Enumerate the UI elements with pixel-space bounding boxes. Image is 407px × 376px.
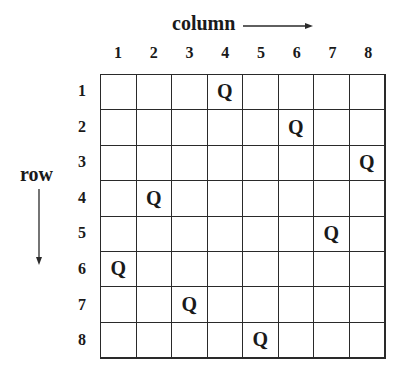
board-cell xyxy=(349,109,385,144)
row-number: 5 xyxy=(74,224,90,242)
column-number: 2 xyxy=(136,44,172,62)
chessboard-grid: QQQQQQQQ xyxy=(100,74,386,359)
queen-marker: Q xyxy=(288,116,304,139)
board-cell xyxy=(278,180,314,215)
right-arrow-icon xyxy=(243,20,313,32)
column-number: 1 xyxy=(100,44,136,62)
board-cell xyxy=(242,180,278,215)
board-cell xyxy=(278,322,314,357)
board-cell xyxy=(100,74,136,109)
queen-marker: Q xyxy=(323,222,339,245)
board-cell xyxy=(313,251,349,286)
board-cell: Q xyxy=(171,286,207,321)
board-cell xyxy=(349,180,385,215)
board-cell xyxy=(100,180,136,215)
board-cell xyxy=(349,74,385,109)
board-cell: Q xyxy=(278,109,314,144)
column-number: 5 xyxy=(243,44,279,62)
board-cell xyxy=(100,145,136,180)
board-cell xyxy=(136,251,172,286)
board-cell xyxy=(171,145,207,180)
board-cell: Q xyxy=(207,74,243,109)
queen-marker: Q xyxy=(181,293,197,316)
board-cell xyxy=(313,145,349,180)
board-cell xyxy=(136,216,172,251)
board-cell: Q xyxy=(136,180,172,215)
board-cell xyxy=(313,322,349,357)
queen-marker: Q xyxy=(110,257,126,280)
board-cell xyxy=(100,286,136,321)
board-cell xyxy=(207,180,243,215)
board-cell xyxy=(207,251,243,286)
board-cell xyxy=(313,286,349,321)
board-cell xyxy=(349,322,385,357)
board-cell xyxy=(278,74,314,109)
board-cell xyxy=(242,145,278,180)
board-cell xyxy=(136,109,172,144)
board-cell xyxy=(278,251,314,286)
board-cell xyxy=(171,251,207,286)
board-cell xyxy=(207,322,243,357)
board-cell xyxy=(313,109,349,144)
board-cell xyxy=(136,74,172,109)
board-cell xyxy=(349,251,385,286)
board-cell xyxy=(207,109,243,144)
queen-marker: Q xyxy=(359,151,375,174)
column-number: 3 xyxy=(172,44,208,62)
row-number: 4 xyxy=(74,189,90,207)
board-cell xyxy=(278,145,314,180)
row-number: 3 xyxy=(74,153,90,171)
board-cell: Q xyxy=(313,216,349,251)
row-number: 7 xyxy=(74,296,90,314)
board-cell xyxy=(136,286,172,321)
board-cell xyxy=(100,109,136,144)
row-axis-label: row xyxy=(20,163,53,185)
row-number: 1 xyxy=(74,82,90,100)
column-number: 7 xyxy=(315,44,351,62)
board-cell xyxy=(242,74,278,109)
row-number: 6 xyxy=(74,260,90,278)
board-cell xyxy=(207,216,243,251)
column-number: 8 xyxy=(350,44,386,62)
board-cell xyxy=(242,109,278,144)
queen-marker: Q xyxy=(146,187,162,210)
board-cell xyxy=(349,216,385,251)
board-cell xyxy=(171,109,207,144)
board-cell xyxy=(207,145,243,180)
board-cell xyxy=(278,286,314,321)
board-cell xyxy=(313,180,349,215)
board-cell xyxy=(349,286,385,321)
board-cell: Q xyxy=(100,251,136,286)
column-number: 6 xyxy=(279,44,315,62)
board-cell xyxy=(171,180,207,215)
board-cell xyxy=(100,216,136,251)
board-cell xyxy=(313,74,349,109)
queen-marker: Q xyxy=(252,328,268,351)
board-cell xyxy=(136,145,172,180)
board-cell xyxy=(278,216,314,251)
board-cell xyxy=(100,322,136,357)
down-arrow-icon xyxy=(33,189,45,265)
board-cell xyxy=(242,216,278,251)
row-number: 8 xyxy=(74,331,90,349)
board-cell: Q xyxy=(242,322,278,357)
board-cell: Q xyxy=(349,145,385,180)
column-axis-label: column xyxy=(172,12,235,34)
board-cell xyxy=(171,216,207,251)
board-cell xyxy=(242,251,278,286)
board-cell xyxy=(242,286,278,321)
column-number: 4 xyxy=(207,44,243,62)
board-cell xyxy=(136,322,172,357)
board-cell xyxy=(207,286,243,321)
board-cell xyxy=(171,74,207,109)
board-cell xyxy=(171,322,207,357)
queen-marker: Q xyxy=(217,80,233,103)
row-number: 2 xyxy=(74,118,90,136)
